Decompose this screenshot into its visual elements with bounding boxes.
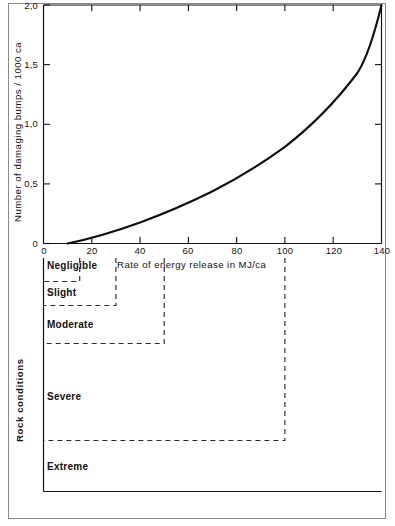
upper-xtick-20: 20 <box>83 245 101 256</box>
upper-ytick-2_0: 2,0 <box>14 0 38 11</box>
energy-release-curve <box>68 5 382 244</box>
upper-xtick-60: 60 <box>179 245 197 256</box>
rock-condition-staircase <box>44 258 285 441</box>
band-label-negligible: Negligible <box>47 260 97 271</box>
upper-xtick-40: 40 <box>131 245 149 256</box>
lower-y-axis-title: Rock conditions <box>14 358 25 442</box>
band-label-moderate: Moderate <box>47 319 93 330</box>
upper-xtick-100: 100 <box>274 245 296 256</box>
upper-y-ticks <box>44 5 51 244</box>
band-label-extreme: Extreme <box>47 461 88 472</box>
band-label-severe: Severe <box>47 391 81 402</box>
upper-x-ticks <box>92 237 333 244</box>
upper-xtick-120: 120 <box>323 245 345 256</box>
band-label-slight: Slight <box>47 287 76 298</box>
upper-x-axis-title: Rate of energy release in MJ/ca <box>117 259 266 270</box>
upper-xtick-80: 80 <box>228 245 246 256</box>
upper-y-axis-title: Number of damaging bumps / 1000 ca <box>12 42 23 222</box>
upper-xtick-0: 0 <box>38 245 50 256</box>
upper-ytick-0: 0 <box>20 238 38 249</box>
upper-top-ticks <box>92 5 333 11</box>
figure-root: 0 0,5 1,0 1,5 2,0 0 20 40 60 80 100 120 … <box>0 0 395 526</box>
upper-right-ticks <box>375 65 382 184</box>
upper-xtick-140: 140 <box>371 245 393 256</box>
